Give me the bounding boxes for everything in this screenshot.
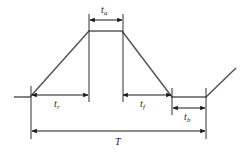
- dimension-label-tb-subscript: b: [187, 116, 191, 124]
- dimension-label-ta-subscript: a: [104, 9, 108, 17]
- pulse-waveform-trace: [14, 31, 236, 97]
- dimension-label-period: T: [115, 137, 121, 147]
- dimension-label-tr: tr: [54, 99, 60, 109]
- dimension-label-tf: tf: [140, 99, 145, 109]
- dimension-label-tf-subscript: f: [143, 103, 145, 111]
- timing-diagram-figure: ta tr tf tb T: [0, 0, 242, 157]
- waveform-canvas: [0, 0, 242, 157]
- dimension-label-tr-subscript: r: [57, 103, 60, 111]
- dimension-label-period-base: T: [115, 136, 121, 147]
- dimension-label-ta: ta: [101, 5, 107, 15]
- dimension-label-tb: tb: [184, 112, 190, 122]
